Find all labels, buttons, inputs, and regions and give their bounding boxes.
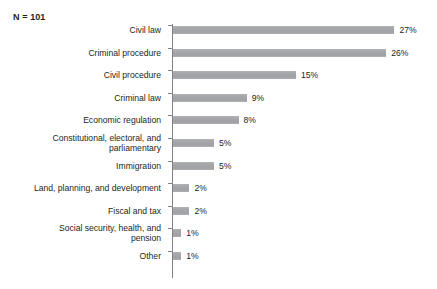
plot-area: Civil law27%Criminal procedure26%Civil p… bbox=[0, 0, 437, 289]
bar-row: Criminal procedure26% bbox=[0, 42, 437, 65]
bar-value-label: 1% bbox=[186, 251, 198, 261]
bar-row: Fiscal and tax2% bbox=[0, 200, 437, 223]
bar-value-label: 2% bbox=[194, 183, 206, 193]
bar bbox=[173, 184, 189, 192]
bar-fill bbox=[173, 252, 181, 260]
axis-tick bbox=[168, 206, 172, 207]
bar-fill bbox=[173, 184, 189, 192]
bar bbox=[173, 26, 394, 34]
bar-category-label: Social security, health, and pension bbox=[0, 223, 161, 243]
axis-tick bbox=[168, 93, 172, 94]
bar-category-label: Civil law bbox=[0, 25, 161, 35]
bar bbox=[173, 49, 386, 57]
bar-row: Other1% bbox=[0, 245, 437, 268]
bar-category-label: Other bbox=[0, 251, 161, 261]
bar bbox=[173, 71, 296, 79]
bar-row: Civil procedure15% bbox=[0, 64, 437, 87]
bar-row: Constitutional, electoral, and parliamen… bbox=[0, 132, 437, 155]
bar-value-label: 5% bbox=[219, 161, 231, 171]
axis-tick bbox=[168, 228, 172, 229]
axis-tick bbox=[168, 183, 172, 184]
bar bbox=[173, 252, 181, 260]
bar bbox=[173, 207, 189, 215]
bar-category-label: Immigration bbox=[0, 161, 161, 171]
axis-tick bbox=[168, 25, 172, 26]
bar-fill bbox=[173, 139, 214, 147]
bar-category-label: Criminal law bbox=[0, 93, 161, 103]
bar bbox=[173, 94, 247, 102]
bar-row: Economic regulation8% bbox=[0, 109, 437, 132]
bar-category-label: Fiscal and tax bbox=[0, 206, 161, 216]
axis-tick bbox=[168, 70, 172, 71]
bar-value-label: 5% bbox=[219, 138, 231, 148]
bar-value-label: 8% bbox=[244, 115, 256, 125]
bar-row: Criminal law9% bbox=[0, 87, 437, 110]
bar-chart: N = 101 Civil law27%Criminal procedure26… bbox=[0, 0, 437, 289]
bar-category-label: Constitutional, electoral, and parliamen… bbox=[0, 133, 161, 153]
bar-fill bbox=[173, 207, 189, 215]
bar-fill bbox=[173, 71, 296, 79]
bar-value-label: 27% bbox=[399, 25, 416, 35]
bar bbox=[173, 229, 181, 237]
axis-tick bbox=[168, 138, 172, 139]
axis-tick bbox=[168, 251, 172, 252]
bar-row: Immigration5% bbox=[0, 155, 437, 178]
bar-fill bbox=[173, 162, 214, 170]
bar-fill bbox=[173, 49, 386, 57]
bar-row: Civil law27% bbox=[0, 19, 437, 42]
bar-category-label: Economic regulation bbox=[0, 115, 161, 125]
axis-tick bbox=[168, 48, 172, 49]
bar-row: Social security, health, and pension1% bbox=[0, 222, 437, 245]
bar-category-label: Criminal procedure bbox=[0, 48, 161, 58]
bar-category-label: Civil procedure bbox=[0, 70, 161, 80]
bar-value-label: 15% bbox=[301, 70, 318, 80]
bar bbox=[173, 162, 214, 170]
bar-value-label: 1% bbox=[186, 228, 198, 238]
axis-tick bbox=[168, 161, 172, 162]
axis-tick bbox=[168, 115, 172, 116]
bar bbox=[173, 139, 214, 147]
bar-fill bbox=[173, 94, 247, 102]
bar-value-label: 2% bbox=[194, 206, 206, 216]
bar-value-label: 9% bbox=[252, 93, 264, 103]
bar-category-label: Land, planning, and development bbox=[0, 183, 161, 193]
bar-fill bbox=[173, 26, 394, 34]
bar-row: Land, planning, and development2% bbox=[0, 177, 437, 200]
bar-fill bbox=[173, 229, 181, 237]
bar-fill bbox=[173, 116, 239, 124]
bar bbox=[173, 116, 239, 124]
bar-value-label: 26% bbox=[391, 48, 408, 58]
